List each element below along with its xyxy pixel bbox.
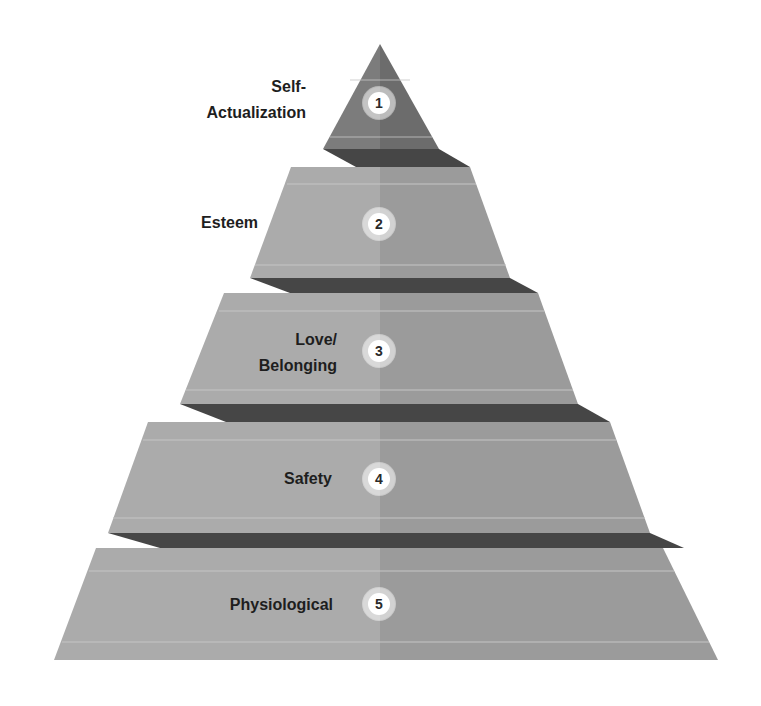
tier-2-label: Esteem [201, 210, 258, 236]
tier-3-number-badge: 3 [368, 340, 390, 362]
tier-1-number-badge: 1 [368, 92, 390, 114]
tier-3-label-line1: Love/ [259, 327, 337, 353]
tier-4-label-line1: Safety [284, 466, 332, 492]
tier-5-label-line1: Physiological [230, 592, 333, 618]
tier-1-label-line2: Actualization [206, 100, 306, 126]
tier-1-label-line1: Self- [206, 74, 306, 100]
tier-5-number-badge: 5 [368, 593, 390, 615]
tier-3-label: Love/ Belonging [259, 327, 337, 379]
tier-2-label-line1: Esteem [201, 210, 258, 236]
band-1-2 [323, 149, 470, 167]
band-4-5 [108, 533, 684, 548]
band-3-4 [180, 404, 610, 422]
band-2-3 [250, 278, 538, 293]
tier-4-number-badge: 4 [368, 468, 390, 490]
tier-1-label: Self- Actualization [206, 74, 306, 126]
tier-4-label: Safety [284, 466, 332, 492]
tier-3-label-line2: Belonging [259, 353, 337, 379]
tier-5-label: Physiological [230, 592, 333, 618]
tier-2-number-badge: 2 [368, 213, 390, 235]
